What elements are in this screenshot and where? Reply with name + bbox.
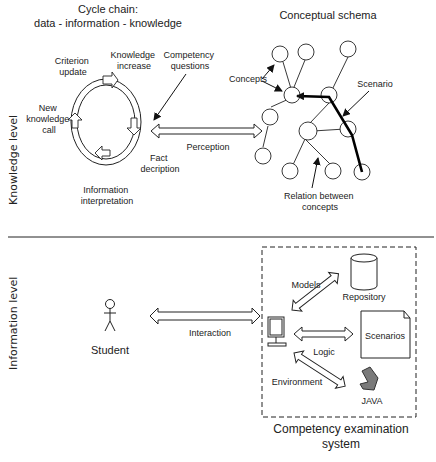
cycle-title-line1: Cycle chain: — [78, 3, 138, 15]
scenario-label: Scenario — [357, 79, 393, 89]
computer-icon — [268, 317, 286, 346]
knowledge-level-label: Knowledge level — [7, 115, 20, 205]
scenarios-label: Scenarios — [365, 331, 406, 341]
interaction-arrow-icon — [150, 308, 260, 324]
concepts-pointer-2 — [262, 81, 282, 91]
perception-label: Perception — [186, 142, 229, 152]
new-knowledge-call-label: New knowledge call — [26, 103, 72, 135]
concepts-pointer-1 — [262, 65, 274, 79]
system-caption-line1: Competency examination — [273, 422, 408, 436]
logic-label: Logic — [313, 347, 335, 357]
fact-description-label: Fact decription — [140, 153, 179, 174]
competency-questions-pointer — [154, 74, 186, 120]
repository-label: Repository — [342, 292, 386, 302]
concepts-label: Concepts — [229, 74, 268, 84]
interaction-label: Interaction — [189, 328, 231, 338]
environment-label: Environment — [272, 377, 323, 387]
java-label: JAVA — [361, 396, 382, 406]
competency-questions-label: Competency questions — [163, 50, 216, 71]
knowledge-increase-label: Knowledge increase — [110, 50, 157, 71]
java-logo-icon — [360, 367, 378, 390]
relation-label: Relation between concepts — [284, 191, 356, 212]
models-arrow-icon — [288, 268, 343, 315]
student-actor-icon — [104, 300, 116, 332]
cycle-arrow-right-icon — [127, 118, 141, 135]
information-interpretation-label: Information interpretation — [81, 185, 134, 206]
relation-pointer — [312, 158, 318, 188]
logic-arrow-icon — [294, 327, 353, 341]
information-level-section: Information level Student Interaction Mo… — [7, 247, 416, 451]
cycle-ring — [68, 72, 141, 165]
perception-arrow-icon — [151, 124, 262, 138]
criterion-update-label: Criterion update — [55, 56, 92, 77]
concept-graph — [255, 41, 370, 180]
information-level-label: Information level — [7, 277, 20, 370]
diagram-canvas: Knowledge level Cycle chain: data - info… — [0, 0, 436, 462]
student-label: Student — [91, 344, 129, 356]
repository-database-icon — [351, 254, 377, 290]
cycle-title-line2: data - information - knowledge — [34, 17, 182, 29]
system-caption-line2: system — [322, 437, 360, 451]
knowledge-level-section: Knowledge level Cycle chain: data - info… — [7, 3, 393, 212]
scenario-pointer — [343, 91, 369, 116]
models-label: Models — [291, 280, 321, 290]
conceptual-schema-title: Conceptual schema — [279, 9, 377, 21]
